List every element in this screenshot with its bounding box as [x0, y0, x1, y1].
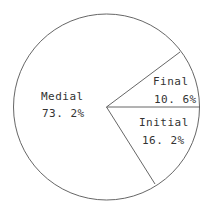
slice-value-medial: 73. 2% [42, 107, 85, 120]
slice-label-initial: Initial [139, 116, 189, 129]
slice-value-initial: 16. 2% [142, 134, 185, 147]
slice-value-final: 10. 6% [154, 93, 197, 106]
slice-label-final: Final [153, 75, 189, 88]
slice-label-medial: Medial [41, 90, 84, 103]
pie-chart: Medial 73. 2% Final 10. 6% Initial 16. 2… [0, 0, 210, 212]
